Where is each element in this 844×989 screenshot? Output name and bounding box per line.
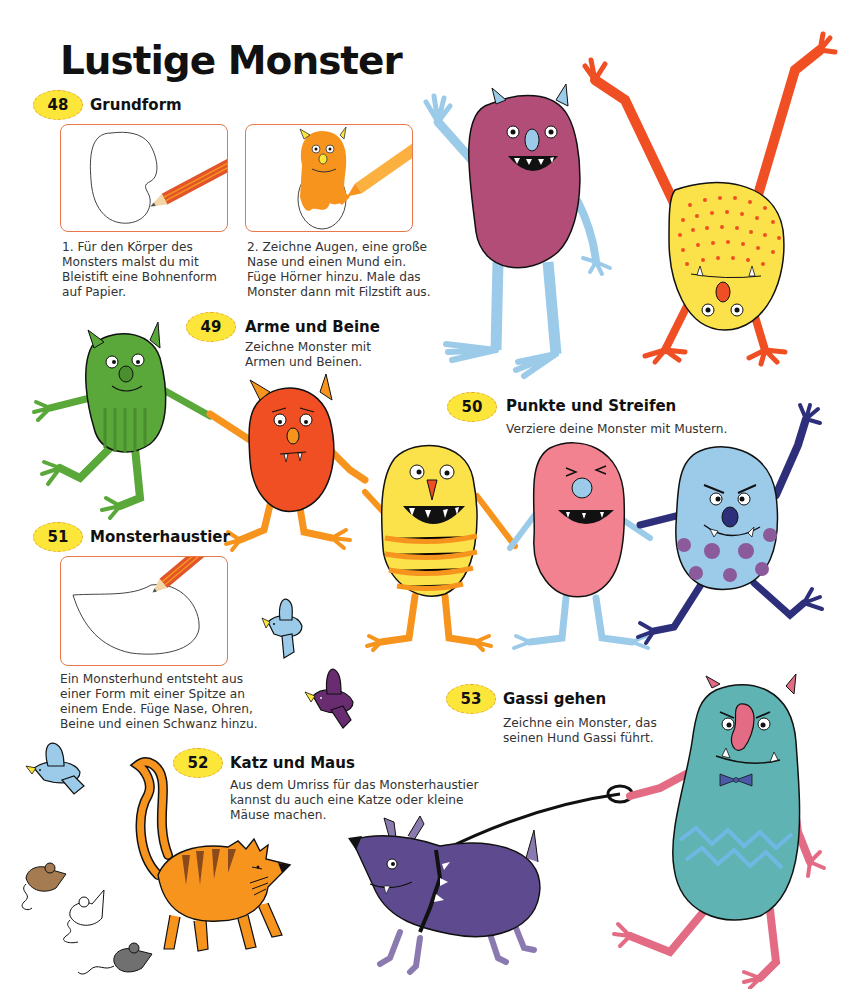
- section-51-badge: 51: [33, 522, 83, 552]
- section-48-badge: 48: [33, 90, 83, 120]
- section-51-text: Ein Monsterhund entsteht aus einer Form …: [60, 672, 258, 732]
- blue-spotted-monster-illustration: [630, 405, 830, 645]
- step-1-text: 1. Für den Körper des Monsters malst du …: [62, 240, 217, 300]
- red-monster-illustration: [200, 370, 370, 550]
- step-2-frame: [245, 124, 413, 232]
- step-1-frame: [60, 124, 228, 232]
- step-pet-frame: [60, 556, 228, 666]
- gassi-gehen-illustration: [340, 672, 840, 989]
- step-2-text: 2. Zeichne Augen, eine große Nase und ei…: [247, 240, 431, 300]
- section-51-title: Monsterhaustier: [90, 528, 230, 546]
- section-49-text: Zeichne Monster mit Armen und Beinen.: [245, 340, 371, 370]
- yellow-dotted-monster-illustration: [585, 30, 840, 380]
- monster-pet-outline-illustration: [61, 557, 227, 665]
- green-monster-illustration: [30, 318, 220, 518]
- section-50-badge: 50: [447, 392, 497, 422]
- section-48-title: Grundform: [90, 96, 182, 114]
- yellow-striped-monster-illustration: [365, 438, 525, 650]
- orange-monster-illustration: [246, 125, 412, 231]
- section-49-title: Arme und Beine: [245, 318, 380, 336]
- blue-bird-2-illustration: [24, 738, 89, 798]
- bean-outline-pencil-illustration: [61, 125, 227, 231]
- page-title: Lustige Monster: [60, 38, 402, 83]
- mice-illustration: [18, 862, 168, 980]
- blue-bird-illustration: [258, 592, 308, 662]
